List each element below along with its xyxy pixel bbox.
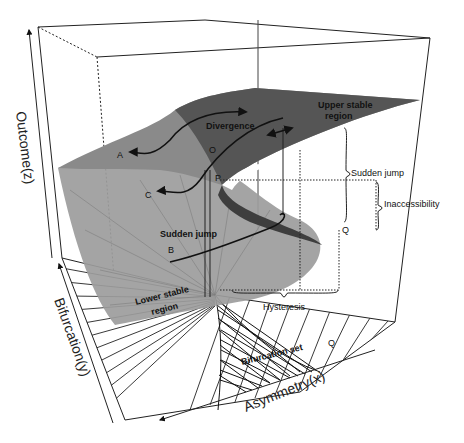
point-O: O (209, 145, 216, 155)
z-axis-label: Outcome(z) (13, 110, 38, 185)
upper-region-label-1: Upper stable (318, 100, 373, 110)
inaccessibility-label: Inaccessibility (384, 199, 440, 209)
sudden-jump-brace (344, 128, 350, 222)
upper-region-label-2: region (325, 111, 353, 121)
cusp-catastrophe-diagram: Outcome(z) Bifurcation(y) Asymmetry(x) U… (0, 0, 464, 443)
hysteresis-label: Hysteresis (263, 302, 306, 312)
divergence-label: Divergence (206, 121, 255, 131)
inaccessibility-brace (376, 182, 382, 230)
point-C: C (145, 190, 152, 200)
point-Q-surface: Q (342, 225, 349, 235)
sudden-jump-bracket-label: Sudden jump (351, 168, 404, 178)
point-B: B (168, 245, 174, 255)
point-Q-base: Q (328, 338, 335, 348)
point-P: P (215, 173, 221, 183)
point-A: A (117, 150, 123, 160)
sudden-jump-surface-label: Sudden jump (160, 229, 217, 239)
